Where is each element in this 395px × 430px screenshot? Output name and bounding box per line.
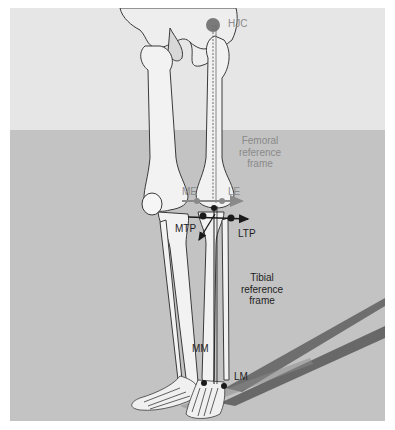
anatomy-figure: HJC Femoral reference frame ME LE MTP LT… (10, 8, 385, 421)
label-le: LE (228, 186, 240, 198)
label-tibial-frame-line2: reference (232, 284, 292, 296)
landmark-mtp (200, 213, 207, 220)
landmark-me (194, 198, 200, 204)
landmark-mm (201, 380, 207, 386)
label-femoral-frame-line3: frame (230, 158, 290, 170)
label-lm: LM (234, 371, 248, 383)
label-hjc: HJC (228, 18, 247, 30)
label-mtp: MTP (175, 223, 196, 235)
landmark-le (219, 198, 225, 204)
label-tibial-frame-line3: frame (232, 295, 292, 307)
anatomy-illustration (10, 8, 385, 421)
label-mm: MM (192, 343, 209, 355)
landmark-ltp (228, 215, 235, 222)
label-femoral-frame-line2: reference (230, 147, 290, 159)
label-me: ME (182, 186, 197, 198)
label-femoral-frame: Femoral reference frame (230, 135, 290, 170)
tibial-origin (211, 205, 217, 211)
label-tibial-frame: Tibial reference frame (232, 272, 292, 307)
label-femoral-frame-line1: Femoral (230, 135, 290, 147)
label-tibial-frame-line1: Tibial (232, 272, 292, 284)
landmark-lm (221, 383, 227, 389)
label-ltp: LTP (238, 228, 256, 240)
